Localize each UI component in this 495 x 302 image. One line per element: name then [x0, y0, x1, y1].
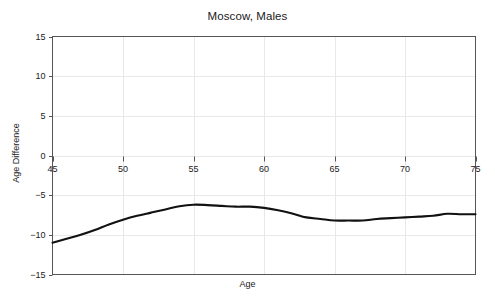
x-tick-label: 65 [329, 164, 339, 174]
y-tick-label: −5 [35, 190, 45, 200]
y-tick-marks [49, 38, 53, 276]
y-tick-labels: 151050−5−10−15 [30, 32, 45, 280]
x-tick-label: 50 [118, 164, 128, 174]
y-axis-label: Age Difference [11, 93, 21, 213]
x-tick-label: 75 [470, 164, 480, 174]
x-tick-label: 45 [47, 164, 57, 174]
x-tick-label: 70 [400, 164, 410, 174]
y-tick-label: 5 [40, 111, 45, 121]
y-tick-label: 10 [35, 71, 45, 81]
x-axis-label: Age [0, 279, 495, 289]
x-tick-label: 60 [259, 164, 269, 174]
x-tick-labels: 45505560657075 [47, 164, 480, 174]
chart-container: Moscow, Males 151050−5−10−15 45505560657… [0, 0, 495, 302]
x-tick-marks [54, 157, 477, 162]
y-tick-label: 15 [35, 32, 45, 42]
plot-area: 151050−5−10−15 45505560657075 [0, 0, 495, 302]
y-tick-label: −10 [30, 230, 45, 240]
gridlines-vertical [124, 37, 406, 275]
x-tick-label: 55 [188, 164, 198, 174]
y-tick-label: 0 [40, 151, 45, 161]
